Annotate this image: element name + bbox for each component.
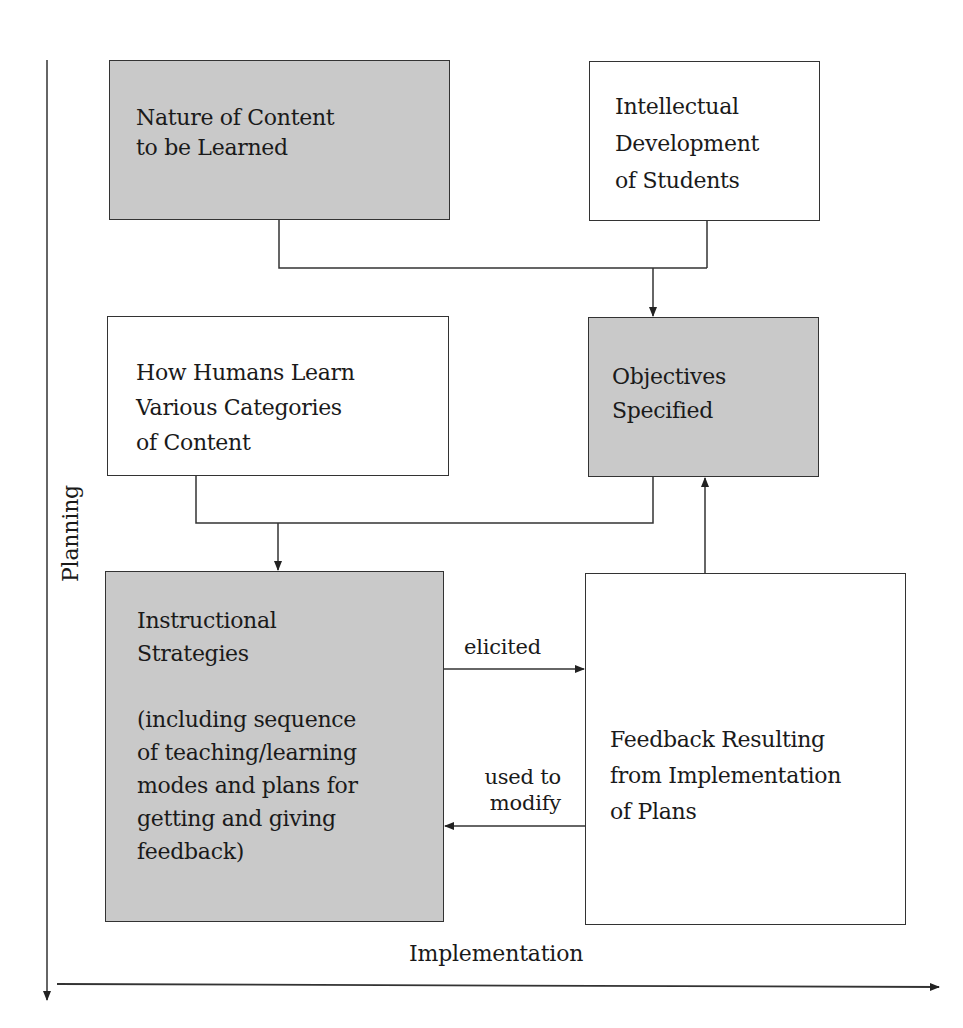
box-objectives-specified-text: Objectives Specified xyxy=(612,360,726,428)
box-nature-of-content-text: Nature of Content to be Learned xyxy=(136,103,334,163)
box-intellectual-development-text: Intellectual Development of Students xyxy=(615,88,759,199)
box-how-humans-learn-text: How Humans Learn Various Categories of C… xyxy=(136,355,355,460)
box-nature-of-content: Nature of Content to be Learned xyxy=(109,60,450,220)
box-how-humans-learn: How Humans Learn Various Categories of C… xyxy=(107,316,449,476)
edge-label-used-to-modify: used to modify xyxy=(469,764,561,816)
axis-label-planning: Planning xyxy=(58,485,83,582)
box-intellectual-development: Intellectual Development of Students xyxy=(589,61,820,221)
connector-howhumans-to-instructional xyxy=(196,475,653,523)
edge-label-elicited: elicited xyxy=(464,634,541,660)
axis-label-implementation: Implementation xyxy=(409,941,583,966)
connector-nature-to-objectives xyxy=(279,219,707,268)
box-feedback-resulting-text: Feedback Resulting from Implementation o… xyxy=(610,722,841,830)
box-feedback-resulting: Feedback Resulting from Implementation o… xyxy=(585,573,906,925)
box-instructional-strategies-text: Instructional Strategies (including sequ… xyxy=(137,604,358,868)
box-objectives-specified: Objectives Specified xyxy=(588,317,819,477)
box-instructional-strategies: Instructional Strategies (including sequ… xyxy=(105,571,444,922)
implementation-axis-arrow xyxy=(57,984,939,987)
